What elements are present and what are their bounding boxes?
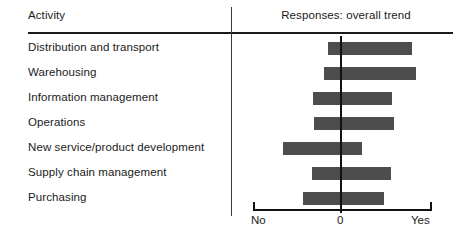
chart-row: Purchasing (0, 186, 467, 211)
range-bar (324, 67, 415, 80)
chart-container: Activity Responses: overall trend Distri… (0, 0, 467, 251)
x-axis-line (253, 209, 432, 211)
chart-row: New service/product development (0, 136, 467, 161)
range-bar (312, 167, 391, 180)
row-label: Operations (28, 116, 85, 128)
range-bar (314, 117, 394, 130)
row-label: Warehousing (28, 66, 96, 78)
row-label: Supply chain management (28, 166, 166, 178)
row-label: Distribution and transport (28, 41, 159, 53)
x-axis-label-yes: Yes (411, 214, 430, 226)
chart-row: Distribution and transport (0, 36, 467, 61)
range-bar (303, 192, 384, 205)
range-bar (313, 92, 392, 105)
row-label: New service/product development (28, 141, 204, 153)
x-axis-label-no: No (251, 214, 266, 226)
chart-row: Warehousing (0, 61, 467, 86)
range-bar (283, 142, 362, 155)
row-label: Purchasing (28, 191, 87, 203)
x-axis-tick-right (430, 202, 432, 211)
row-label: Information management (28, 91, 158, 103)
chart-row: Information management (0, 86, 467, 111)
x-axis-label-zero: 0 (337, 214, 343, 226)
chart-row: Supply chain management (0, 161, 467, 186)
chart-rows: Distribution and transportWarehousingInf… (0, 0, 467, 251)
chart-row: Operations (0, 111, 467, 136)
x-axis-tick-left (253, 202, 255, 211)
zero-reference-line (340, 36, 343, 213)
